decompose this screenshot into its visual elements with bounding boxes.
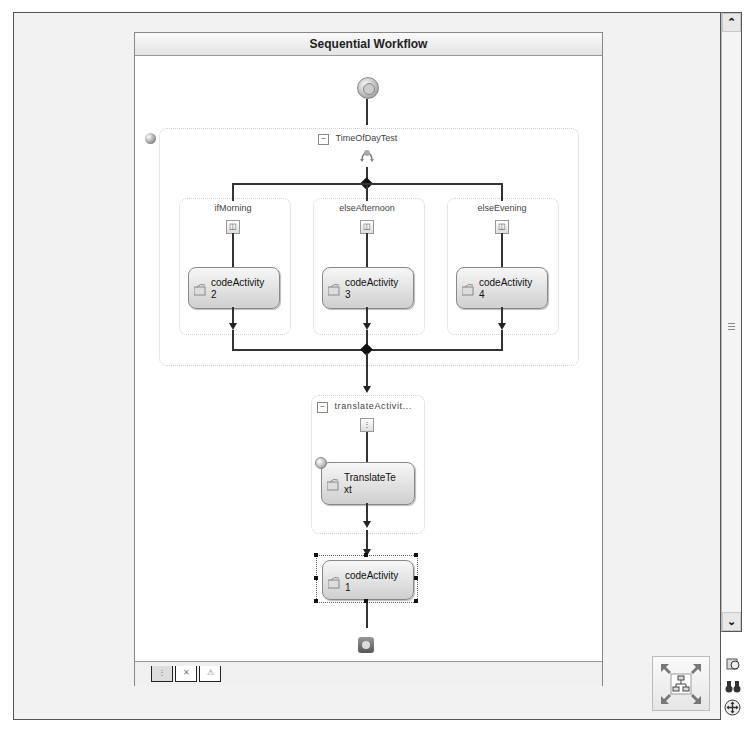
translate-name: translateActivit... — [335, 401, 412, 411]
connector — [232, 233, 234, 267]
activity-label: codeActivity2 — [211, 277, 264, 301]
workflow-start-icon — [357, 77, 379, 99]
translate-text-activity[interactable]: TranslateText — [321, 462, 415, 505]
connector — [366, 99, 368, 125]
resize-handle[interactable] — [314, 599, 318, 603]
fit-to-screen-icon — [659, 662, 703, 706]
resize-handle[interactable] — [414, 599, 418, 603]
resize-handle[interactable] — [414, 576, 418, 580]
translate-header[interactable]: − translateActivit... — [317, 401, 412, 413]
collapse-icon[interactable]: − — [317, 402, 328, 413]
collapse-icon[interactable]: − — [318, 134, 329, 145]
code-activity-4[interactable]: codeActivity4 — [456, 267, 548, 309]
zoom-icon — [725, 656, 741, 672]
activity-label: codeActivity3 — [345, 277, 398, 301]
connector — [366, 233, 368, 267]
scroll-down-button[interactable]: ⌄ — [722, 612, 741, 631]
arrow-down-icon — [363, 323, 371, 330]
workflow-end-icon — [358, 637, 374, 653]
workflow-title: Sequential Workflow — [135, 33, 602, 56]
pan-tool-button[interactable] — [723, 699, 742, 717]
connector — [232, 183, 234, 201]
custom-activity-badge-icon — [315, 457, 327, 469]
connector — [366, 183, 368, 201]
fault-handlers-tab[interactable]: ⚠ — [199, 666, 221, 682]
activity-label: codeActivity4 — [479, 277, 532, 301]
chevron-down-icon: ⌄ — [727, 615, 736, 628]
cancel-handler-icon: ✕ — [183, 668, 190, 677]
branch-name: elseAfternoon — [331, 203, 403, 213]
code-activity-icon — [327, 479, 341, 491]
code-activity-icon — [462, 284, 476, 296]
fit-to-screen-button[interactable] — [652, 656, 710, 711]
activity-label: TranslateText — [344, 472, 396, 496]
view-tabs-bar: ⋮ ✕ ⚠ — [135, 661, 602, 686]
code-activity-icon — [328, 577, 342, 589]
cancel-handlers-tab[interactable]: ✕ — [175, 666, 197, 682]
connector — [366, 432, 368, 462]
code-activity-3[interactable]: codeActivity3 — [322, 267, 414, 309]
ifelse-icon — [358, 149, 376, 165]
sphere-icon — [145, 133, 156, 144]
branch-name: elseEvening — [468, 203, 536, 213]
ifelse-header[interactable]: − TimeOfDayTest — [318, 133, 397, 145]
connector — [366, 353, 368, 387]
workflow-view-icon: ⋮ — [158, 668, 166, 677]
find-tool-button[interactable] — [723, 678, 742, 696]
branch-name: ifMorning — [205, 203, 261, 213]
resize-handle[interactable] — [414, 553, 418, 557]
scroll-up-button[interactable]: ⌃ — [722, 13, 741, 32]
binoculars-icon — [725, 678, 741, 694]
fault-handler-icon: ⚠ — [207, 668, 214, 677]
workflow-canvas[interactable]: Sequential Workflow − TimeOfDayTest ifMo… — [134, 32, 603, 686]
connector — [501, 330, 503, 350]
sequence-icon: ⋮ — [360, 418, 374, 432]
vertical-scrollbar[interactable]: ⌃ ⌄ — [721, 12, 742, 632]
arrow-down-icon — [229, 323, 237, 330]
code-activity-1[interactable]: codeActivity1 — [322, 560, 414, 600]
resize-handle[interactable] — [314, 576, 318, 580]
connector — [366, 603, 368, 628]
condition-icon: ◫ — [226, 220, 240, 234]
scroll-thumb-grip[interactable] — [728, 323, 735, 331]
connector — [232, 330, 234, 350]
activity-label: codeActivity1 — [345, 570, 398, 594]
workflow-view-tab[interactable]: ⋮ — [151, 666, 173, 682]
chevron-up-icon: ⌃ — [727, 16, 736, 29]
connector — [501, 183, 503, 201]
zoom-tool-button[interactable] — [723, 656, 742, 674]
code-activity-2[interactable]: codeActivity2 — [188, 267, 280, 309]
code-activity-icon — [328, 284, 342, 296]
pan-icon — [724, 699, 741, 716]
connector — [501, 233, 503, 267]
arrow-down-icon — [498, 323, 506, 330]
condition-icon: ◫ — [495, 220, 509, 234]
code-activity-icon — [194, 284, 208, 296]
arrow-down-icon — [363, 386, 371, 393]
ifelse-name: TimeOfDayTest — [336, 133, 398, 143]
arrow-down-icon — [363, 521, 371, 528]
resize-handle[interactable] — [314, 553, 318, 557]
condition-icon: ◫ — [360, 220, 374, 234]
resize-handle[interactable] — [364, 553, 368, 557]
